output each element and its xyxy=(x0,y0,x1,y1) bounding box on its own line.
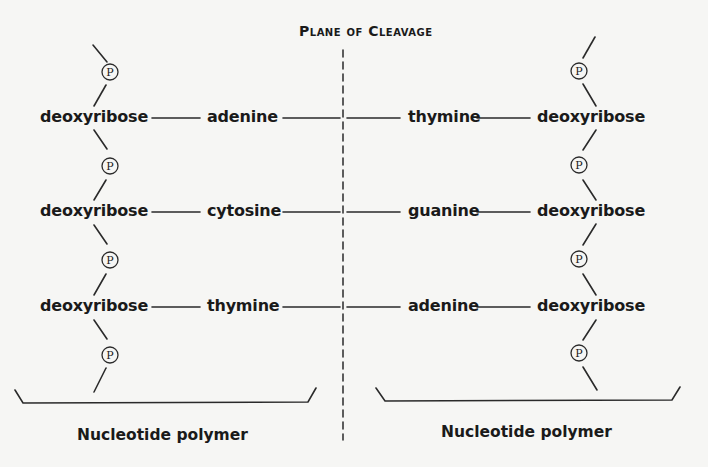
left-polymer-caption: Nucleotide polymer xyxy=(77,426,248,444)
right-polymer-bracket xyxy=(376,387,680,401)
phosphate-icon: P xyxy=(106,160,114,173)
left-base-3: thymine xyxy=(207,298,279,314)
right-base-3: adenine xyxy=(408,298,479,314)
diagram-lines: P P P P P P P P xyxy=(0,0,708,467)
right-base-1: thymine xyxy=(408,109,480,125)
phosphate-icon: P xyxy=(106,254,114,267)
left-base-1: adenine xyxy=(207,109,278,125)
phosphate-labels: P P P P P P P P xyxy=(106,65,583,362)
right-base-2: guanine xyxy=(408,203,479,219)
left-base-2: cytosine xyxy=(207,203,281,219)
right-polymer-caption: Nucleotide polymer xyxy=(441,423,612,441)
phosphate-icon: P xyxy=(575,65,583,78)
left-sugar-1: deoxyribose xyxy=(40,109,148,125)
left-sugar-2: deoxyribose xyxy=(40,203,148,219)
phosphate-icon: P xyxy=(575,159,583,172)
right-sugar-2: deoxyribose xyxy=(537,203,645,219)
phosphate-icon: P xyxy=(106,66,114,79)
right-sugar-1: deoxyribose xyxy=(537,109,645,125)
left-sugar-3: deoxyribose xyxy=(40,298,148,314)
phosphate-icon: P xyxy=(106,349,114,362)
plane-of-cleavage-title: Plane of Cleavage xyxy=(299,23,433,39)
left-polymer-bracket xyxy=(15,388,316,403)
phosphate-icon: P xyxy=(575,347,583,360)
right-sugar-3: deoxyribose xyxy=(537,298,645,314)
phosphate-icon: P xyxy=(575,253,583,266)
